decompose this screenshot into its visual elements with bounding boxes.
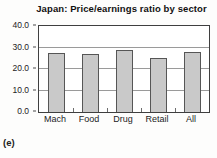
y-tick-label-30.0: 30.0 — [12, 42, 29, 52]
y-axis: 0.010.020.030.040.0 — [0, 25, 36, 111]
x-category-label-mach: Mach — [38, 114, 72, 124]
gridline-30 — [39, 47, 209, 48]
bar-retail — [150, 58, 167, 112]
y-axis-tick — [33, 111, 36, 112]
bar-drug — [116, 50, 133, 112]
x-axis-tick — [107, 108, 108, 112]
x-axis-tick — [175, 108, 176, 112]
x-category-label-drug: Drug — [106, 114, 140, 124]
figure-panel: Japan: Price/earnings ratio by sector 0.… — [0, 0, 217, 158]
y-axis-tick — [33, 68, 36, 69]
x-category-label-retail: Retail — [140, 114, 174, 124]
x-axis-tick — [73, 108, 74, 112]
y-axis-tick — [33, 46, 36, 47]
bar-mach — [48, 53, 65, 112]
x-axis-tick — [141, 108, 142, 112]
y-axis-tick — [33, 89, 36, 90]
y-axis-tick — [33, 25, 36, 26]
bar-food — [82, 54, 99, 112]
x-category-label-food: Food — [72, 114, 106, 124]
y-tick-label-40.0: 40.0 — [12, 20, 29, 30]
y-tick-label-20.0: 20.0 — [12, 63, 29, 73]
panel-label: (e) — [3, 137, 15, 148]
bar-all — [184, 52, 201, 112]
y-tick-label-0.0: 0.0 — [17, 106, 29, 116]
y-tick-label-10.0: 10.0 — [12, 85, 29, 95]
x-category-label-all: All — [174, 114, 208, 124]
x-axis-labels: MachFoodDrugRetailAll — [38, 114, 208, 126]
chart-title: Japan: Price/earnings ratio by sector — [28, 3, 215, 14]
plot-area — [38, 25, 210, 113]
